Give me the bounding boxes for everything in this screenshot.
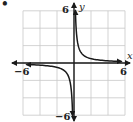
x-axis-label: x: [127, 51, 133, 61]
x-min-label: −6: [14, 67, 29, 77]
branch-quadrant-I: [75, 10, 121, 61]
y-min-label: −6: [55, 112, 70, 122]
graph-canvas: [0, 0, 133, 122]
axes: [12, 3, 130, 121]
x-max-label: 6: [120, 67, 127, 77]
problem-marker: •: [1, 0, 9, 9]
y-max-label: 6: [62, 5, 69, 15]
y-axis-label: y: [79, 2, 85, 12]
branch-quadrant-III: [26, 65, 72, 116]
